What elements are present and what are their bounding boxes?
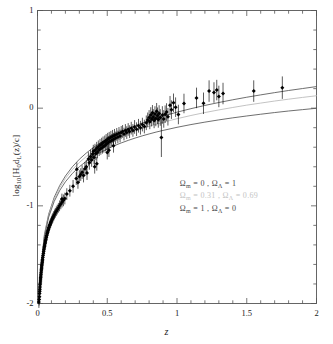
data-point [159, 135, 163, 139]
x-tick-label: 0 [20, 308, 56, 318]
data-point [85, 171, 89, 175]
data-point [212, 91, 216, 95]
data-point [65, 192, 69, 196]
model-curve [38, 108, 317, 303]
data-point [176, 113, 180, 117]
legend-separator: , [216, 191, 223, 200]
legend-entry: Ωm = 1 , ΩΛ = 0 [180, 204, 237, 214]
data-point [221, 92, 225, 96]
omega-lambda-value: 0.69 [243, 191, 258, 200]
omega-m-value: 0.31 [200, 191, 215, 200]
data-point [174, 105, 178, 109]
data-point [252, 89, 256, 93]
data-point [207, 89, 211, 93]
equals-sign: = [191, 204, 200, 213]
legend-separator: , [205, 179, 212, 188]
plot-canvas [0, 0, 333, 344]
legend-entry: Ωm = 0 , ΩΛ = 1 [180, 179, 237, 189]
data-point [280, 86, 284, 90]
hubble-diagram-figure: 00.511.5210-1-2 [0, 0, 333, 344]
equals-sign: = [191, 191, 200, 200]
data-point [71, 184, 75, 188]
data-point [172, 101, 176, 105]
legend-separator: , [205, 204, 212, 213]
y-label-log: log [11, 184, 21, 196]
plot-frame [38, 11, 317, 304]
data-point [202, 101, 206, 105]
data-point [68, 189, 72, 193]
y-tick-label: -2 [12, 298, 34, 308]
equals-sign-2: = [223, 204, 232, 213]
y-tick-label: 1 [12, 5, 34, 15]
data-point [215, 88, 219, 92]
equals-sign-2: = [233, 191, 242, 200]
equals-sign: = [191, 179, 200, 188]
data-point [182, 101, 186, 105]
y-axis-label: log10[H0dL(z)/c] [11, 96, 22, 236]
x-tick-label: 1.5 [229, 308, 265, 318]
x-axis-label: z [0, 326, 333, 337]
data-point [195, 96, 199, 100]
y-label-sub-10: 10 [15, 177, 22, 184]
x-tick-label: 1 [159, 308, 195, 318]
x-tick-label: 2 [299, 308, 333, 318]
data-point [93, 165, 97, 169]
y-label-d: d [11, 159, 21, 164]
omega-lambda-value: 0 [232, 204, 236, 213]
y-label-sub-0: 0 [15, 164, 22, 167]
x-tick-label: 0.5 [89, 308, 125, 318]
omega-lambda-value: 1 [232, 179, 236, 188]
y-label-tail: (z)/c] [11, 135, 21, 156]
y-label-sub-l: L [15, 155, 22, 159]
data-point [95, 162, 99, 166]
equals-sign-2: = [223, 179, 232, 188]
y-label-bracket-h: [H [11, 168, 21, 178]
data-point [217, 94, 221, 98]
legend-entry: Ωm = 0.31 , ΩΛ = 0.69 [180, 191, 258, 201]
